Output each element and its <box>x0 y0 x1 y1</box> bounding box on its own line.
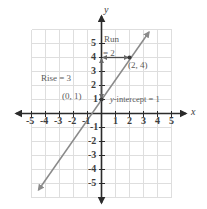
y-tick-label-neg3: -3 <box>88 150 96 160</box>
y-tick-label-neg4: -4 <box>88 164 96 174</box>
y-tick-label-neg1: -1 <box>90 122 98 132</box>
run-label-line1: Run <box>104 35 119 44</box>
y-tick-label-5: 5 <box>91 38 96 48</box>
y-tick-label-neg5: -5 <box>88 178 96 188</box>
y-tick-label-2: 2 <box>91 80 96 90</box>
y-tick-label-3: 3 <box>91 66 96 76</box>
x-tick-label-3: 3 <box>141 116 146 126</box>
point-label-2-4: (2, 4) <box>128 61 148 70</box>
x-tick-label-neg4: -4 <box>40 116 48 126</box>
y-tick-label-1: 1 <box>93 94 98 104</box>
graph-figure: -5 -4 -3 -2 -1 1 2 3 4 5 5 4 3 2 1 -1 -2… <box>0 0 207 209</box>
x-tick-label-4: 4 <box>155 116 160 126</box>
x-tick-label-neg3: -3 <box>54 116 62 126</box>
y-intercept-label-text: -intercept = 1 <box>114 94 160 104</box>
point-label-0-1: (0, 1) <box>62 92 82 101</box>
y-axis-label: y <box>104 5 108 15</box>
y-tick-label-neg2: -2 <box>88 136 96 146</box>
run-label-line2: = 2 <box>103 49 115 58</box>
rise-label: Rise = 3 <box>41 74 71 83</box>
x-tick-label-2: 2 <box>127 116 132 126</box>
point-0-1 <box>99 97 103 101</box>
y-intercept-label: y-intercept = 1 <box>110 95 160 104</box>
point-2-4 <box>127 55 131 59</box>
y-tick-label-4: 4 <box>91 52 96 62</box>
coordinate-plane <box>0 0 207 209</box>
x-tick-label-neg2: -2 <box>68 116 76 126</box>
x-tick-label-neg5: -5 <box>26 116 34 126</box>
x-tick-label-1: 1 <box>113 116 118 126</box>
x-tick-label-5: 5 <box>169 116 174 126</box>
x-axis-label: x <box>191 107 195 117</box>
